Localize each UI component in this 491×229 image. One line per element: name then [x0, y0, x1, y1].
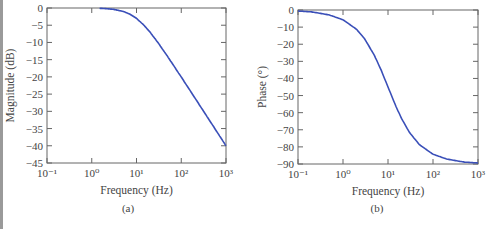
- x-tick-label: 10⁻¹: [37, 167, 57, 179]
- y-tick-label: −10: [277, 21, 295, 33]
- y-axis-label: Magnitude (dB): [4, 48, 17, 122]
- x-tick-label: 10¹: [129, 167, 143, 179]
- y-tick-label: −40: [277, 72, 295, 84]
- plot-frame: [47, 8, 226, 163]
- x-tick-label: 10¹: [381, 168, 395, 180]
- y-tick-label: 0: [38, 2, 44, 14]
- x-tick-label: 10⁰: [335, 168, 351, 180]
- y-tick-label: −25: [26, 88, 44, 100]
- y-tick-label: −60: [277, 107, 295, 119]
- phase-plot: 0−10−20−30−40−50−60−70−80−9010⁻¹10⁰10¹10…: [256, 4, 486, 215]
- x-tick-label: 10³: [471, 168, 486, 180]
- y-tick-label: −30: [277, 55, 295, 67]
- y-tick-label: −30: [26, 105, 44, 117]
- data-curve: [100, 8, 226, 146]
- x-tick-label: 10³: [219, 167, 234, 179]
- y-tick-label: −5: [31, 19, 43, 31]
- y-tick-label: −20: [26, 71, 44, 83]
- x-tick-label: 10⁰: [84, 167, 100, 179]
- panel-caption: (a): [122, 202, 135, 215]
- data-curve: [298, 11, 478, 163]
- y-tick-label: −50: [277, 90, 295, 102]
- y-tick-label: −10: [26, 36, 44, 48]
- x-tick-label: 10²: [174, 167, 189, 179]
- y-tick-label: −35: [26, 123, 44, 135]
- x-tick-label: 10²: [426, 168, 441, 180]
- y-tick-label: −15: [26, 54, 44, 66]
- y-tick-label: −20: [277, 38, 295, 50]
- x-axis-label: Frequency (Hz): [352, 185, 425, 198]
- bode-plot-figure: 0−5−10−15−20−25−30−35−40−4510⁻¹10⁰10¹10²…: [0, 0, 491, 229]
- y-tick-label: −80: [277, 141, 295, 153]
- y-tick-label: 0: [289, 4, 295, 16]
- panel-caption: (b): [371, 202, 384, 215]
- y-tick-label: −40: [26, 140, 44, 152]
- magnitude-plot: 0−5−10−15−20−25−30−35−40−4510⁻¹10⁰10¹10²…: [4, 2, 234, 215]
- y-tick-label: −70: [277, 124, 295, 136]
- x-axis-label: Frequency (Hz): [100, 184, 173, 197]
- y-axis-label: Phase (°): [256, 66, 269, 108]
- x-tick-label: 10⁻¹: [288, 168, 308, 180]
